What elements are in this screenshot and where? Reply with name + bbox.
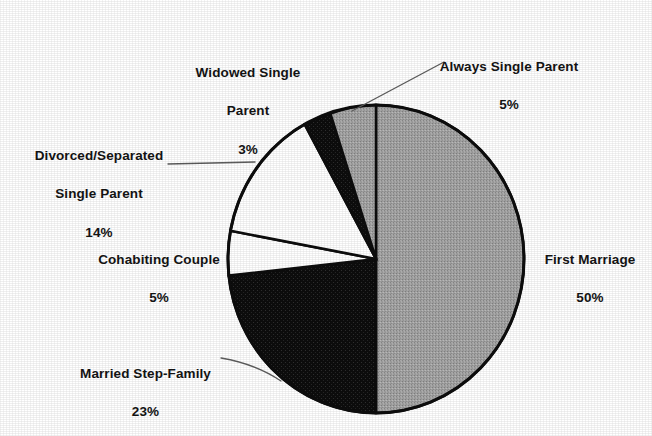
pie-label-married-step-family-value: 23%	[58, 402, 233, 421]
pie-label-divorced-separated-name-line1: Divorced/Separated	[14, 146, 184, 165]
pie-label-widowed-single-parent-name-line1: Widowed Single	[168, 63, 328, 82]
pie-label-divorced-separated-name-line2: Single Parent	[14, 184, 184, 203]
pie-label-widowed-single-parent: Widowed Single Parent 3%	[168, 44, 328, 178]
pie-label-always-single-parent: Always Single Parent 5%	[404, 38, 614, 134]
pie-label-married-step-family: Married Step-Family 23%	[58, 345, 233, 436]
pie-label-first-marriage-name: First Marriage	[528, 250, 652, 269]
pie-label-first-marriage: First Marriage 50%	[528, 231, 652, 327]
pie-chart-figure: Always Single Parent 5% Widowed Single P…	[0, 0, 652, 436]
pie-slice-first-marriage[interactable]	[376, 105, 524, 413]
pie-label-always-single-parent-name: Always Single Parent	[404, 57, 614, 76]
pie-label-married-step-family-name: Married Step-Family	[58, 364, 233, 383]
pie-label-cohabiting-couple-name: Cohabiting Couple	[74, 250, 244, 269]
pie-label-first-marriage-value: 50%	[528, 288, 652, 307]
pie-label-widowed-single-parent-value: 3%	[168, 140, 328, 159]
pie-label-always-single-parent-value: 5%	[404, 95, 614, 114]
pie-label-widowed-single-parent-name-line2: Parent	[168, 101, 328, 120]
pie-slice-married-step-family[interactable]	[229, 259, 376, 413]
pie-label-cohabiting-couple: Cohabiting Couple 5%	[74, 231, 244, 327]
pie-label-cohabiting-couple-value: 5%	[74, 288, 244, 307]
